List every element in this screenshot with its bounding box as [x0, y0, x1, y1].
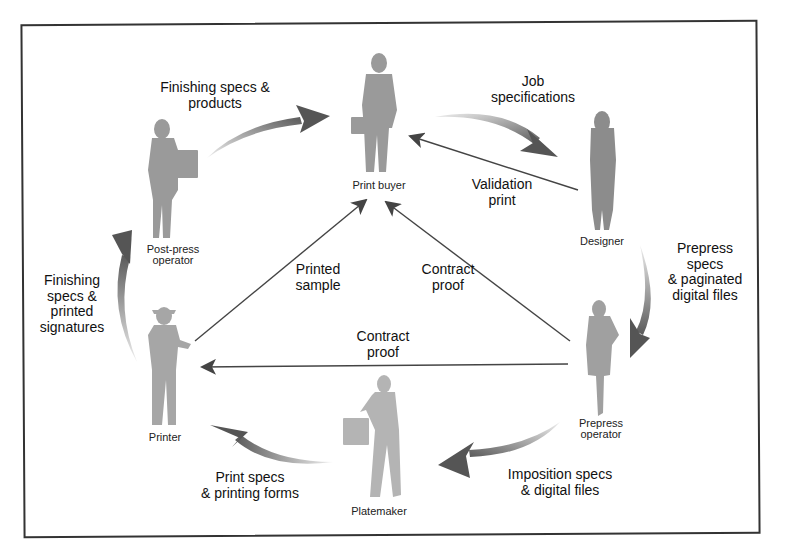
label-line: Imposition specs — [500, 467, 620, 483]
label-printed-sample: Printed sample — [283, 262, 353, 293]
label-contract-proof-to-printer: Contract proof — [343, 329, 423, 360]
label-line: Finishing — [36, 273, 108, 289]
arrow-contract-proof-to-printer — [202, 364, 568, 367]
curved-arrow-finishing-signatures — [112, 230, 137, 362]
label-finishing-signatures: Finishing specs & printed signatures — [36, 273, 108, 336]
label-line: & paginated — [655, 272, 755, 288]
label-line: printed — [36, 304, 108, 320]
label-line: specs — [655, 257, 755, 273]
label-job-specifications: Job specifications — [478, 74, 588, 105]
label-line: Job — [478, 74, 588, 90]
label-line: Printed — [283, 262, 353, 278]
label-line: signatures — [36, 320, 108, 336]
label-line: products — [150, 96, 280, 112]
label-validation-print: Validation print — [462, 177, 542, 208]
role-prepress-operator: Prepress operator — [572, 418, 630, 440]
label-line: digital files — [655, 288, 755, 304]
print-buyer-figure — [351, 53, 397, 172]
label-line: sample — [283, 278, 353, 294]
label-line: print — [462, 193, 542, 209]
role-prepress-operator-line2: operator — [572, 429, 630, 440]
label-line: Finishing specs & — [150, 80, 280, 96]
platemaker-figure — [343, 375, 401, 497]
label-print-specs: Print specs & printing forms — [195, 470, 305, 501]
label-line: Contract — [343, 329, 423, 345]
label-imposition-specs: Imposition specs & digital files — [500, 467, 620, 498]
prepress-operator-figure — [586, 300, 619, 416]
curved-arrow-finishing-products — [207, 105, 330, 158]
label-line: Contract — [408, 262, 488, 278]
role-platemaker: Platemaker — [346, 506, 412, 517]
role-print-buyer: Print buyer — [346, 180, 412, 191]
label-line: Validation — [462, 177, 542, 193]
role-designer: Designer — [574, 236, 630, 247]
role-post-press-operator-line2: operator — [140, 255, 206, 266]
designer-figure — [590, 111, 616, 230]
label-line: & digital files — [500, 483, 620, 499]
label-line: Prepress — [655, 241, 755, 257]
role-post-press-operator: Post-press operator — [140, 244, 206, 266]
label-prepress-specs: Prepress specs & paginated digital files — [655, 241, 755, 304]
workflow-diagram: Print buyer Designer Prepress operator P… — [0, 0, 785, 553]
printer-figure — [148, 307, 191, 425]
label-contract-proof-to-buyer: Contract proof — [408, 262, 488, 293]
label-line: Print specs — [195, 470, 305, 486]
post-press-operator-figure — [148, 119, 198, 238]
label-line: & printing forms — [195, 486, 305, 502]
label-line: specifications — [478, 90, 588, 106]
label-line: specs & — [36, 289, 108, 305]
curved-arrow-print-specs — [210, 425, 333, 464]
curved-arrow-prepress-specs — [630, 245, 651, 358]
label-line: proof — [408, 278, 488, 294]
label-line: proof — [343, 345, 423, 361]
role-printer: Printer — [140, 432, 190, 443]
label-finishing-products: Finishing specs & products — [150, 80, 280, 111]
